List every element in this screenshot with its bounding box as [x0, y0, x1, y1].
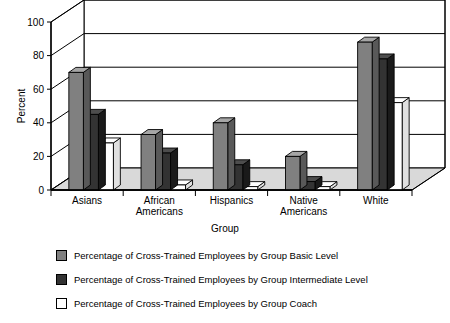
ytick-label-40: 40: [33, 117, 45, 128]
bar-front-face: [358, 42, 373, 190]
legend-swatch-basic: [56, 250, 67, 261]
y-axis-title: Percent: [16, 89, 27, 124]
legend-item-intermediate[interactable]: Percentage of Cross-Trained Employees by…: [56, 267, 446, 291]
chart-legend: Percentage of Cross-Trained Employees by…: [56, 243, 446, 315]
legend-label-coach: Percentage of Cross-Trained Employees by…: [74, 298, 317, 309]
bar-front-face: [141, 135, 156, 190]
legend-label-basic: Percentage of Cross-Trained Employees by…: [74, 250, 338, 261]
category-label-0-line-0: Asians: [72, 195, 102, 206]
bar-side-face: [300, 151, 307, 190]
bar-side-face: [402, 98, 409, 190]
bar-side-face: [171, 148, 178, 190]
ytick-label-80: 80: [33, 50, 45, 61]
bar-side-face: [387, 54, 394, 190]
category-label-3-line-1: Americans: [280, 206, 327, 217]
bar-side-face: [113, 138, 120, 190]
legend-item-basic[interactable]: Percentage of Cross-Trained Employees by…: [56, 243, 446, 267]
bar-side-face: [372, 37, 379, 190]
bar-chart-figure: 020406080100AsiansAfricanAmericansHispan…: [0, 0, 450, 240]
ytick-label-100: 100: [27, 17, 44, 28]
bar-side-face: [156, 130, 163, 190]
category-label-1-line-0: African: [144, 195, 175, 206]
ytick-label-20: 20: [33, 151, 45, 162]
category-label-4-line-0: White: [363, 195, 389, 206]
bar-white-series-1[interactable]: [358, 37, 380, 190]
bar-front-face: [213, 123, 228, 190]
bar-side-face: [98, 109, 105, 190]
category-label-3-line-0: Native: [290, 195, 319, 206]
ytick-label-0: 0: [38, 185, 44, 196]
bar-african-americans-series-1[interactable]: [141, 130, 163, 190]
chart-page: 020406080100AsiansAfricanAmericansHispan…: [0, 0, 450, 323]
legend-swatch-intermediate: [56, 274, 67, 285]
legend-swatch-coach: [56, 298, 67, 309]
bar-side-face: [83, 67, 90, 190]
bar-native-americans-series-1[interactable]: [285, 151, 307, 190]
ytick-label-60: 60: [33, 84, 45, 95]
legend-item-coach[interactable]: Percentage of Cross-Trained Employees by…: [56, 291, 446, 315]
bar-hispanics-series-1[interactable]: [213, 118, 235, 190]
x-axis-title: Group: [211, 223, 239, 234]
bar-front-face: [69, 72, 84, 190]
bar-asians-series-1[interactable]: [69, 67, 91, 190]
category-label-2-line-0: Hispanics: [210, 195, 253, 206]
legend-label-intermediate: Percentage of Cross-Trained Employees by…: [74, 274, 368, 285]
bar-front-face: [285, 156, 300, 190]
chart-canvas: 020406080100AsiansAfricanAmericansHispan…: [0, 0, 450, 240]
bar-side-face: [228, 118, 235, 190]
category-label-1-line-1: Americans: [136, 206, 183, 217]
